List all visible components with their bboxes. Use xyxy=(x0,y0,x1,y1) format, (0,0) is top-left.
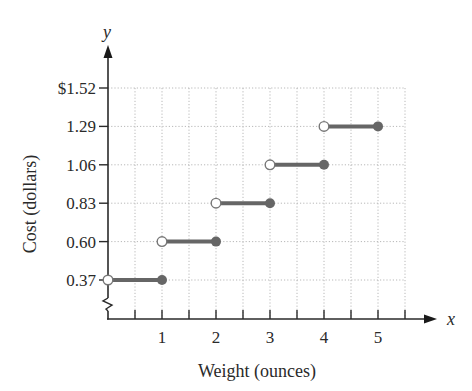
y-axis-variable: y xyxy=(101,22,111,42)
closed-endpoint-icon xyxy=(157,275,167,285)
closed-endpoint-icon xyxy=(211,237,221,247)
y-tick-label: 0.37 xyxy=(66,271,96,290)
open-endpoint-icon xyxy=(157,237,167,247)
open-endpoint-icon xyxy=(265,160,275,170)
open-endpoint-icon xyxy=(319,122,329,132)
open-endpoint-icon xyxy=(211,198,221,208)
y-tick-label: $1.52 xyxy=(58,79,96,98)
x-axis-arrow-icon xyxy=(424,315,437,324)
open-endpoint-icon xyxy=(103,275,113,285)
y-axis-title: Cost (dollars) xyxy=(20,155,41,254)
x-tick-label: 4 xyxy=(320,328,329,347)
y-tick-label: 1.29 xyxy=(66,117,96,136)
x-tick-label: 3 xyxy=(266,328,275,347)
y-tick-label: 0.60 xyxy=(66,233,96,252)
closed-endpoint-icon xyxy=(319,160,329,170)
closed-endpoint-icon xyxy=(265,198,275,208)
y-axis-break-icon xyxy=(103,298,112,311)
step-function-chart: 0.370.600.831.061.29$1.5212345 y x Weigh… xyxy=(0,0,472,391)
y-axis-arrow-icon xyxy=(104,45,113,58)
tick-labels: 0.370.600.831.061.29$1.5212345 xyxy=(58,79,383,347)
x-axis-title: Weight (ounces) xyxy=(198,361,316,382)
x-tick-label: 1 xyxy=(158,328,167,347)
x-tick-label: 2 xyxy=(212,328,221,347)
y-tick-label: 0.83 xyxy=(66,194,96,213)
x-axis-variable: x xyxy=(446,309,455,329)
closed-endpoint-icon xyxy=(373,121,383,131)
x-tick-label: 5 xyxy=(374,328,383,347)
y-tick-label: 1.06 xyxy=(66,156,96,175)
